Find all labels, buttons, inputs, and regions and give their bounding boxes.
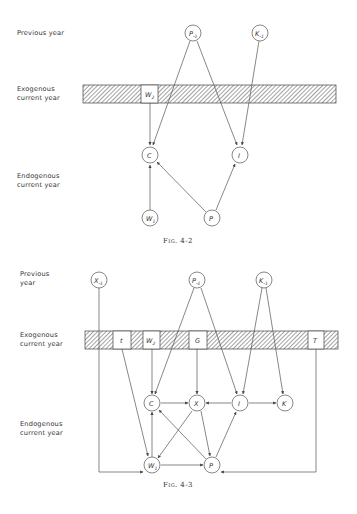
- fig42-edge-P-I: [216, 164, 235, 210]
- causal-diagrams: P-1 K-1 W2 C I W1 P: [0, 0, 357, 514]
- fig42-node-labels: P-1 K-1 W2 C I W1 P: [145, 30, 264, 224]
- fig42-exogenous-bar: [83, 85, 336, 103]
- fig42-node-I: [232, 147, 248, 163]
- svg-text:I: I: [238, 400, 240, 408]
- svg-text:C: C: [149, 400, 154, 408]
- fig43-node-I: [232, 395, 248, 411]
- fig-4-3: [85, 272, 338, 473]
- fig42-edge-P-C: [157, 162, 206, 212]
- fig43-edge-T-P: [221, 349, 316, 472]
- fig43-node-labels: X-1 P-1 K-1 t W2 G T C X I K W1 P: [93, 277, 318, 471]
- fig43-edge-X-P: [201, 411, 210, 456]
- fig43-edge-P-C: [159, 410, 206, 459]
- fig-4-2: [83, 25, 336, 226]
- svg-text:t: t: [120, 337, 123, 345]
- svg-text:G: G: [195, 337, 200, 345]
- fig43-edge-P-I: [216, 412, 236, 457]
- fig43-edge-X-W1: [158, 411, 192, 458]
- fig43-edge-Xprev-W1: [99, 288, 143, 472]
- svg-text:X: X: [193, 400, 199, 408]
- svg-text:K: K: [282, 400, 287, 408]
- svg-text:C: C: [147, 152, 152, 160]
- svg-text:P: P: [209, 215, 213, 223]
- svg-text:I: I: [238, 152, 240, 160]
- svg-text:P: P: [209, 462, 213, 470]
